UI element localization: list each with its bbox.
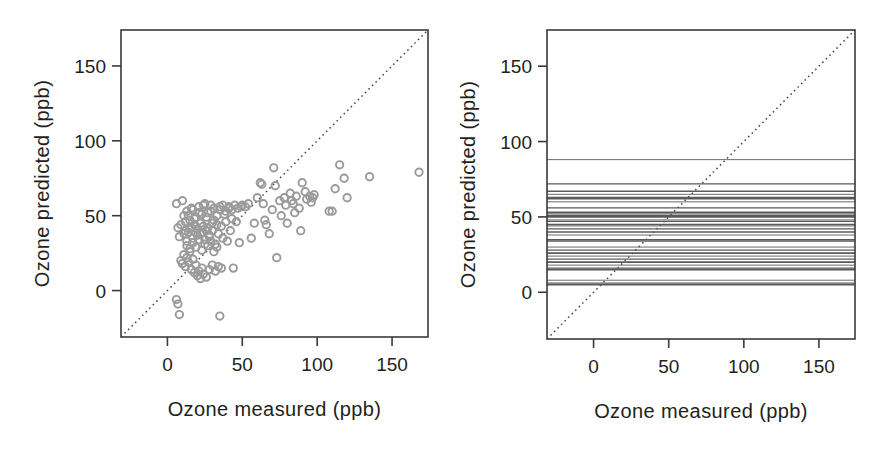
data-point — [299, 179, 306, 186]
data-point — [251, 219, 258, 226]
x-tick-label: 150 — [803, 356, 835, 377]
data-point — [291, 209, 298, 216]
y-tick-label: 0 — [95, 281, 106, 302]
data-point — [302, 188, 309, 195]
panel-content-right — [547, 30, 855, 339]
y-tick-label: 150 — [74, 56, 106, 77]
data-point — [343, 194, 350, 201]
y-tick-label: 0 — [521, 282, 532, 303]
x-axis-title: Ozone measured (ppb) — [168, 398, 382, 420]
x-tick-label: 50 — [658, 356, 679, 377]
data-point — [366, 173, 373, 180]
data-point — [236, 239, 243, 246]
data-point — [278, 212, 285, 219]
data-point — [216, 312, 223, 319]
data-point — [273, 254, 280, 261]
x-tick-label: 0 — [588, 356, 599, 377]
x-tick-label: 50 — [232, 354, 253, 375]
data-point — [230, 264, 237, 271]
panel-left: 050100150050100150Ozone measured (ppb)Oz… — [31, 30, 428, 420]
y-tick-label: 50 — [85, 206, 106, 227]
figure-canvas: 050100150050100150Ozone measured (ppb)Oz… — [0, 0, 894, 456]
x-axis-title: Ozone measured (ppb) — [594, 400, 808, 422]
y-tick-label: 100 — [500, 132, 532, 153]
data-point — [272, 182, 279, 189]
data-point — [340, 175, 347, 182]
y-tick-label: 100 — [74, 131, 106, 152]
data-point — [254, 194, 261, 201]
x-tick-label: 0 — [162, 354, 173, 375]
x-tick-label: 100 — [728, 356, 760, 377]
y-tick-label: 50 — [511, 207, 532, 228]
data-point — [269, 206, 276, 213]
panel-right: 050100150050100150Ozone measured (ppb)Oz… — [457, 30, 855, 422]
data-point — [297, 227, 304, 234]
data-point — [248, 234, 255, 241]
y-tick-label: 150 — [500, 56, 532, 77]
data-point — [336, 161, 343, 168]
data-point — [260, 200, 267, 207]
identity-reference-line — [121, 30, 428, 337]
data-point — [296, 205, 303, 212]
identity-reference-line — [547, 30, 855, 339]
data-point — [331, 185, 338, 192]
data-point — [176, 311, 183, 318]
y-axis-title: Ozone predicted (ppb) — [31, 80, 53, 287]
data-point — [415, 169, 422, 176]
ozone-prediction-figure: 050100150050100150Ozone measured (ppb)Oz… — [0, 0, 894, 456]
panel-content-left — [121, 30, 428, 337]
x-tick-label: 150 — [376, 354, 408, 375]
data-point — [284, 219, 291, 226]
x-tick-label: 100 — [301, 354, 333, 375]
data-point — [270, 164, 277, 171]
data-point — [266, 230, 273, 237]
y-axis-title: Ozone predicted (ppb) — [457, 81, 479, 288]
